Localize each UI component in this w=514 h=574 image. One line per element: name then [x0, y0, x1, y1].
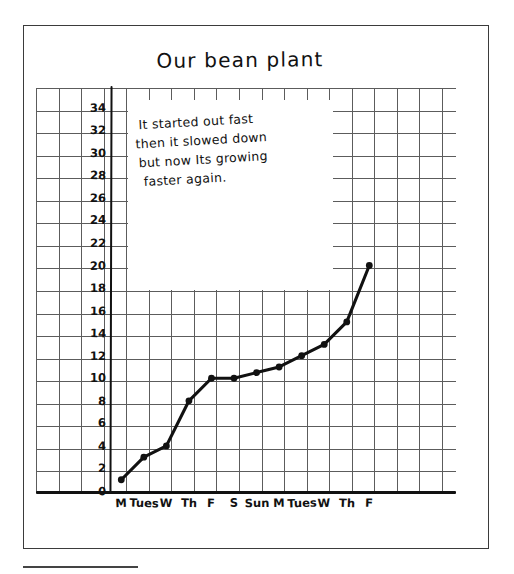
- grid-line-vertical: [59, 88, 60, 493]
- annotation-note: It started out fastthen it slowed downbu…: [128, 100, 333, 290]
- grid-line-vertical: [374, 88, 375, 493]
- y-tick-label: 6: [80, 416, 106, 431]
- chart-title: Our bean plant: [110, 47, 370, 74]
- grid-line-vertical: [36, 88, 37, 493]
- y-tick-label: 4: [80, 439, 106, 453]
- grid-line-vertical: [397, 88, 398, 493]
- y-tick-label: 26: [80, 191, 106, 205]
- y-tick-label: 12: [80, 348, 106, 362]
- y-tick-label: 32: [80, 123, 106, 137]
- y-tick-label: 0: [80, 484, 106, 499]
- y-tick-label: 16: [80, 303, 106, 317]
- y-tick-label: 14: [80, 326, 106, 341]
- y-tick-label: 20: [80, 258, 106, 273]
- x-axis-tick-labels: MTuesWThFSSunMTuesWThF: [110, 496, 456, 522]
- y-tick-label: 24: [80, 213, 106, 227]
- grid-line-vertical: [442, 88, 443, 493]
- y-tick-label: 28: [80, 168, 106, 183]
- y-tick-label: 18: [80, 281, 106, 295]
- y-tick-label: 2: [80, 461, 106, 475]
- y-tick-label: 34: [80, 100, 106, 115]
- y-tick-label: 8: [80, 394, 106, 408]
- y-axis-tick-labels: 3432302826242220181614121086420: [78, 88, 106, 494]
- annotation-text: It started out fastthen it slowed downbu…: [132, 104, 336, 191]
- y-tick-label: 10: [80, 371, 106, 385]
- bottom-rule: [23, 566, 138, 568]
- y-tick-label: 30: [80, 146, 106, 160]
- grid-line-vertical: [352, 88, 353, 493]
- grid-line-vertical: [419, 88, 420, 493]
- y-tick-label: 22: [80, 236, 106, 250]
- x-tick-label: F: [352, 495, 386, 510]
